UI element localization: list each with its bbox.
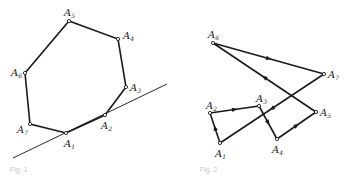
vertex-dot-a5 (314, 110, 317, 113)
vertex-label-a2: A2 (100, 120, 112, 132)
vertex-dot-a7 (322, 72, 325, 75)
figure-caption: Fig. 2 (200, 166, 218, 174)
vertex-label-a6: A6 (207, 29, 219, 41)
vertex-label-a5: A5 (63, 7, 75, 19)
supporting-line (13, 84, 167, 158)
vertex-dot-a6 (211, 41, 214, 44)
vertex-label-a2: A2 (205, 100, 217, 112)
vertex-dot-a2 (208, 111, 211, 114)
vertex-label-a7: A7 (16, 124, 28, 136)
vertex-dot-a6 (23, 71, 26, 74)
figure-2-directed-polygon: A1A2A3A4A5A6A7 Fig. 2 (200, 29, 339, 174)
vertex-dot-a3 (124, 85, 127, 88)
vertex-dot-a1 (218, 141, 221, 144)
figure-caption: Fig. 1 (10, 166, 28, 174)
vertex-dot-a1 (64, 131, 67, 134)
vertex-label-a6: A6 (10, 67, 22, 79)
vertex-dot-a4 (275, 137, 278, 140)
vertex-dot-a5 (67, 19, 70, 22)
vertex-label-a1: A1 (214, 148, 226, 160)
vertex-dot-a7 (28, 122, 31, 125)
vertex-dot-a2 (103, 113, 106, 116)
vertex-label-a1: A1 (63, 138, 75, 150)
heptagon-outline (25, 21, 126, 133)
vertex-label-a4: A4 (271, 144, 283, 156)
figure-1-convex-heptagon: A1A2A3A4A5A6A7 Fig. 1 (10, 7, 167, 174)
vertex-label-a4: A4 (122, 30, 134, 42)
vertex-label-a7: A7 (327, 69, 339, 81)
diagram-canvas: A1A2A3A4A5A6A7 Fig. 1 A1A2A3A4A5A6A7 Fig… (0, 0, 346, 176)
vertex-label-a3: A3 (129, 82, 141, 94)
vertex-label-a5: A5 (319, 107, 331, 119)
vertex-dot-a3 (257, 104, 260, 107)
arrow-icon (265, 119, 271, 126)
vertex-label-a3: A3 (255, 93, 267, 105)
vertex-dot-a4 (116, 37, 119, 40)
